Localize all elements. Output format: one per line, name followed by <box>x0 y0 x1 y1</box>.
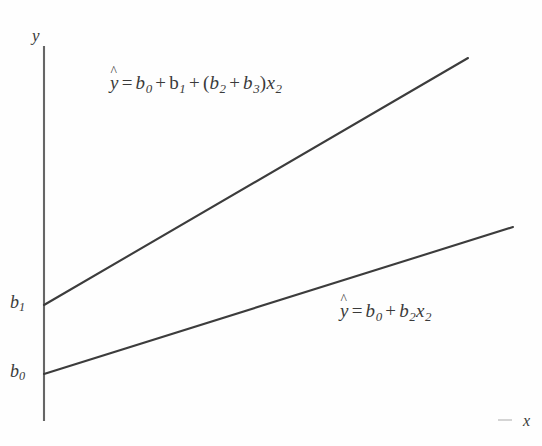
eq-upper-b1: b <box>169 72 179 93</box>
eq-lower-b2: b <box>399 300 409 321</box>
y-tick-label-b0: b0 <box>10 361 25 384</box>
regression-interaction-figure: y x b1 b0 y=b0+b1+(b2+b3)x2 y=b0+b2x2 <box>0 0 542 446</box>
equation-upper-line: y=b0+b1+(b2+b3)x2 <box>110 72 282 97</box>
y-axis-label: y <box>32 26 40 46</box>
y-tick-b0-sub: 0 <box>19 369 25 383</box>
eq-upper-b0: b <box>136 72 146 93</box>
eq-upper-plus-3: + <box>226 72 243 93</box>
regression-line-lower <box>44 227 513 374</box>
eq-upper-equals: = <box>119 72 136 93</box>
eq-lower-x2-sub: 2 <box>425 309 432 324</box>
eq-upper-yhat: y <box>110 72 119 94</box>
eq-upper-b1-sub: 1 <box>179 81 186 96</box>
y-tick-label-b1: b1 <box>10 292 25 315</box>
y-tick-b0-base: b <box>10 361 19 381</box>
eq-upper-b3: b <box>243 72 253 93</box>
eq-lower-yhat: y <box>340 300 349 322</box>
eq-upper-x2: x <box>266 72 275 93</box>
eq-lower-equals: = <box>349 300 366 321</box>
eq-lower-x2: x <box>416 300 425 321</box>
x-axis-label: x <box>523 412 530 430</box>
eq-upper-b3-sub: 3 <box>253 81 260 96</box>
y-tick-b1-sub: 1 <box>19 300 25 314</box>
eq-lower-b0: b <box>366 300 376 321</box>
eq-upper-plus-1: + <box>152 72 169 93</box>
eq-lower-plus-1: + <box>382 300 399 321</box>
eq-upper-plus-2: + <box>186 72 203 93</box>
plot-canvas <box>0 0 542 446</box>
eq-lower-b2-sub: 2 <box>409 309 416 324</box>
y-tick-b1-base: b <box>10 292 19 312</box>
equation-lower-line: y=b0+b2x2 <box>340 300 432 325</box>
eq-upper-x2-sub: 2 <box>275 81 282 96</box>
eq-upper-b2: b <box>209 72 219 93</box>
